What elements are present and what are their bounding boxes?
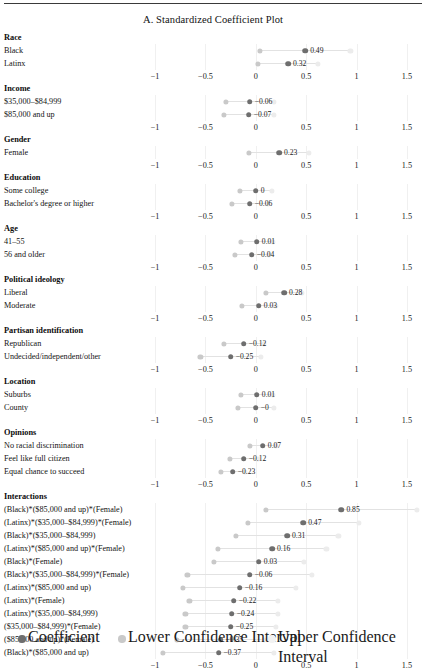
gridline <box>155 465 156 478</box>
row-label: Moderate <box>4 299 35 312</box>
lower-ci-dot <box>239 303 244 308</box>
gridline <box>407 439 408 452</box>
gridline <box>306 388 307 401</box>
row-label: (Latinx)*($35,000–$84,999)*(Female) <box>4 516 131 529</box>
lower-ci-dot <box>232 252 237 257</box>
x-axis-tick: −1 <box>151 121 160 134</box>
gridline <box>205 286 206 299</box>
coefficient-plot: RaceBlack0.49Latinx0.32−1−0.500.511.5Inc… <box>0 32 426 672</box>
gridline <box>407 568 408 581</box>
gridline <box>407 184 408 197</box>
upper-ci-dot <box>324 546 329 551</box>
x-axis-tick: −0.5 <box>198 363 213 376</box>
x-axis-tick: 0.5 <box>301 70 311 83</box>
x-axis: −1−0.500.511.5 <box>0 159 426 172</box>
upper-ci-dot <box>316 61 321 66</box>
gridline <box>205 452 206 465</box>
gridline <box>407 108 408 121</box>
x-axis-tick: 1 <box>354 659 358 672</box>
gridline <box>306 248 307 261</box>
group-title: Education <box>0 172 426 184</box>
coefficient-dot <box>241 341 247 347</box>
legend-label: Coefficient <box>28 627 100 647</box>
gridline <box>407 542 408 555</box>
coefficient-dot <box>260 443 266 449</box>
x-axis-tick: 1.5 <box>402 159 412 172</box>
coefficient-dot <box>276 150 282 156</box>
upper-ci-dot <box>414 507 419 512</box>
x-axis-tick: 1 <box>354 261 358 274</box>
gridline <box>256 465 257 478</box>
lower-ci-dot <box>233 533 238 538</box>
gridline <box>407 581 408 594</box>
upper-ci-dot <box>336 533 341 538</box>
coefficient-dot <box>253 405 259 411</box>
gridline <box>407 57 408 70</box>
row-label: (Latinx)*($85,000 and up)*(Female) <box>4 542 125 555</box>
x-axis-tick: 1 <box>354 210 358 223</box>
lower-ci-dot <box>238 392 243 397</box>
gridline <box>407 286 408 299</box>
row-track: −0.06 <box>140 568 422 581</box>
gridline <box>306 197 307 210</box>
row-label: Latinx <box>4 57 25 70</box>
coefficient-row: (Black)*($35,000–$84,999)0.31 <box>0 529 426 542</box>
gridline <box>407 529 408 542</box>
coefficient-row: (Black)*($85,000 and up)*(Female)0.85 <box>0 503 426 516</box>
coefficient-row: (Latinx)*($35,000–$84,999)*(Female)0.47 <box>0 516 426 529</box>
coefficient-value: −0.37 <box>224 646 242 659</box>
x-axis-tick: 0.5 <box>301 414 311 427</box>
lower-ci-dot <box>187 598 192 603</box>
coefficient-group: Income$35,000–$84,999−0.06$85,000 and up… <box>0 83 426 134</box>
x-axis-tick: 1 <box>354 70 358 83</box>
gridline <box>407 452 408 465</box>
x-axis-tick: 1 <box>354 312 358 325</box>
coefficient-value: −0.12 <box>249 452 267 465</box>
coefficient-row: No racial discrimination0.07 <box>0 439 426 452</box>
row-label: Black <box>4 44 23 57</box>
lower-ci-dot <box>229 201 234 206</box>
x-axis-tick: 0.5 <box>301 210 311 223</box>
x-axis: −1−0.500.511.5 <box>0 478 426 491</box>
gridline <box>357 555 358 568</box>
upper-ci-dot <box>307 150 312 155</box>
lower-ci-dot <box>215 546 220 551</box>
gridline <box>205 388 206 401</box>
x-axis-tick: 1.5 <box>402 414 412 427</box>
gridline <box>407 44 408 57</box>
gridline <box>205 337 206 350</box>
coefficient-group: RaceBlack0.49Latinx0.32−1−0.500.511.5 <box>0 32 426 83</box>
row-track: 0.23 <box>140 146 422 159</box>
gridline <box>155 439 156 452</box>
row-label: Liberal <box>4 286 28 299</box>
coefficient-dot <box>231 598 237 604</box>
gridline <box>155 235 156 248</box>
coefficient-value: 0.01 <box>262 388 275 401</box>
x-axis-tick: 0 <box>254 414 258 427</box>
gridline <box>306 108 307 121</box>
row-label: Suburbs <box>4 388 31 401</box>
gridline <box>205 44 206 57</box>
group-title: Age <box>0 223 426 235</box>
coefficient-dot <box>241 456 247 462</box>
row-label: (Latinx)*($85,000 and up) <box>4 581 91 594</box>
gridline <box>407 401 408 414</box>
row-track: 0.03 <box>140 299 422 312</box>
coefficient-row: Moderate0.03 <box>0 299 426 312</box>
chart-legend: CoefficientLower Confidence IntervalUppe… <box>0 627 426 647</box>
x-axis: −1−0.500.511.5 <box>0 261 426 274</box>
group-title: Opinions <box>0 427 426 439</box>
x-axis-tick: 0 <box>254 261 258 274</box>
lower-ci-dot <box>246 150 251 155</box>
gridline <box>357 337 358 350</box>
x-axis-tick: 1.5 <box>402 261 412 274</box>
coefficient-row: (Black)*($85,000 and up)−0.37 <box>0 646 426 659</box>
row-track: −0.06 <box>140 197 422 210</box>
gridline <box>205 197 206 210</box>
gridline <box>357 388 358 401</box>
coefficient-row: Undecided/independent/other−0.25 <box>0 350 426 363</box>
x-axis-tick: 0 <box>254 70 258 83</box>
coefficient-dot <box>228 354 234 360</box>
x-axis-tick: 1 <box>354 414 358 427</box>
gridline <box>155 350 156 363</box>
